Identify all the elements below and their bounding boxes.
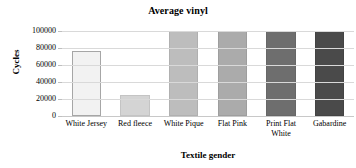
x-axis-title: Textile gender bbox=[62, 150, 354, 160]
y-tick-mark bbox=[58, 82, 62, 83]
y-tick-label: 0 bbox=[0, 112, 56, 120]
x-category-label: White Jersey bbox=[62, 119, 111, 147]
bar-slot bbox=[257, 31, 306, 116]
y-tick-mark bbox=[58, 31, 62, 32]
bar-slot bbox=[62, 31, 111, 116]
bar-slot bbox=[159, 31, 208, 116]
y-tick-mark bbox=[58, 65, 62, 66]
x-category-label: Print Flat White bbox=[257, 119, 306, 147]
x-axis-line bbox=[62, 116, 354, 117]
x-category-label: Red fleece bbox=[111, 119, 160, 147]
bar-slot bbox=[111, 31, 160, 116]
gridline bbox=[62, 31, 354, 32]
bar-slot bbox=[208, 31, 257, 116]
gridline bbox=[62, 99, 354, 100]
bar-series bbox=[62, 31, 354, 116]
gridline bbox=[62, 82, 354, 83]
bar-slot bbox=[305, 31, 354, 116]
y-tick-label: 60000 bbox=[0, 61, 56, 69]
bar[interactable] bbox=[169, 31, 198, 116]
y-tick-label: 20000 bbox=[0, 95, 56, 103]
bar[interactable] bbox=[72, 51, 101, 116]
y-tick-mark bbox=[58, 99, 62, 100]
x-axis-category-labels: White JerseyRed fleeceWhite PiqueFlat Pi… bbox=[62, 119, 354, 147]
x-category-label: Gabardine bbox=[305, 119, 354, 147]
gridline bbox=[62, 65, 354, 66]
y-tick-label: 100000 bbox=[0, 27, 56, 35]
x-category-label: Flat Pink bbox=[208, 119, 257, 147]
bar[interactable] bbox=[266, 31, 295, 116]
plot-area: 020000400006000080000100000 bbox=[62, 31, 354, 116]
chart-title: Average vinyl bbox=[0, 5, 356, 17]
y-tick-mark bbox=[58, 116, 62, 117]
y-tick-mark bbox=[58, 48, 62, 49]
bar-chart: Average vinyl Cycles 0200004000060000800… bbox=[0, 0, 356, 168]
y-tick-label: 80000 bbox=[0, 44, 56, 52]
y-tick-label: 40000 bbox=[0, 78, 56, 86]
x-category-label: White Pique bbox=[159, 119, 208, 147]
bar[interactable] bbox=[218, 31, 247, 116]
gridline bbox=[62, 48, 354, 49]
bar[interactable] bbox=[315, 31, 344, 116]
